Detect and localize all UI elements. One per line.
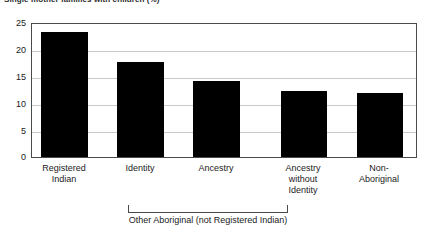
bar-chart: Single mother families with children (%)… [0, 0, 431, 240]
x-label-ancestry: Ancestry [176, 163, 256, 174]
bar-registered-indian[interactable] [41, 32, 88, 157]
group-bracket-label: Other Aboriginal (not Registered Indian) [78, 215, 338, 226]
x-label-line: Identity [263, 185, 343, 196]
x-label-line: Non- [339, 163, 419, 174]
bar-identity[interactable] [117, 62, 164, 157]
gridline-15 [32, 78, 416, 79]
x-label-ancestry-without-identity: Ancestry without Identity [263, 163, 343, 196]
bar-non-aboriginal[interactable] [357, 93, 403, 157]
x-label-line: Registered [24, 163, 104, 174]
x-label-line: Ancestry [263, 163, 343, 174]
bar-ancestry[interactable] [193, 81, 240, 157]
x-label-line: Ancestry [176, 163, 256, 174]
x-label-line: without [263, 174, 343, 185]
y-tick-label-0: 0 [0, 153, 26, 162]
x-label-line: Aboriginal [339, 174, 419, 185]
group-bracket [128, 205, 288, 213]
x-label-non-aboriginal: Non- Aboriginal [339, 163, 419, 185]
y-tick-label-10: 10 [0, 100, 26, 109]
y-tick-label-20: 20 [0, 46, 26, 55]
x-label-line: Identity [100, 163, 180, 174]
x-label-line: Indian [24, 174, 104, 185]
y-tick-label-5: 5 [0, 127, 26, 136]
x-label-identity: Identity [100, 163, 180, 174]
plot-area [31, 23, 417, 158]
bar-ancestry-without-identity[interactable] [281, 91, 327, 157]
gridline-20 [32, 51, 416, 52]
y-tick-label-15: 15 [0, 73, 26, 82]
x-label-registered-indian: Registered Indian [24, 163, 104, 185]
y-tick-label-25: 25 [0, 19, 26, 28]
